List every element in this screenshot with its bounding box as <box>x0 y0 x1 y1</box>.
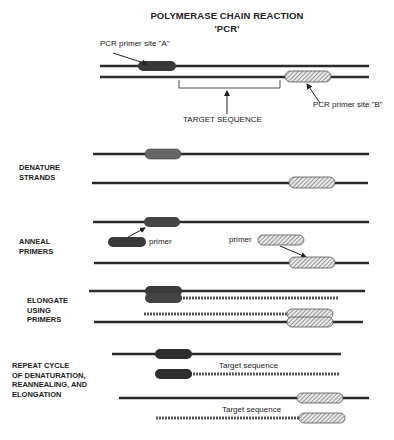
label-primer-right: primer <box>229 235 252 244</box>
label-primer-site-b: PCR primer site "B" <box>313 100 383 109</box>
step-elongate: ELONGATE USING PRIMERS <box>27 296 68 325</box>
label-target-seq-1: Target sequence <box>219 361 278 370</box>
label-primer-site-a: PCR primer site "A" <box>100 39 170 48</box>
step-denature: DENATURE STRANDS <box>19 163 60 182</box>
label-target-seq-2: Target sequence <box>222 405 281 414</box>
label-target-sequence: TARGET SEQUENCE <box>183 115 262 124</box>
diagram-subtitle: 'PCR' <box>0 23 394 34</box>
step-repeat-cycle: REPEAT CYCLE OF DENATURATION, REANNEALIN… <box>12 361 87 399</box>
diagram-title: POLYMERASE CHAIN REACTION <box>0 10 394 21</box>
elongate-strands <box>89 286 365 327</box>
primer-site-b-shape <box>285 71 331 82</box>
denatured-strands <box>92 149 369 188</box>
label-primer-left: primer <box>149 237 172 246</box>
step-anneal: ANNEAL PRIMERS <box>19 237 53 256</box>
